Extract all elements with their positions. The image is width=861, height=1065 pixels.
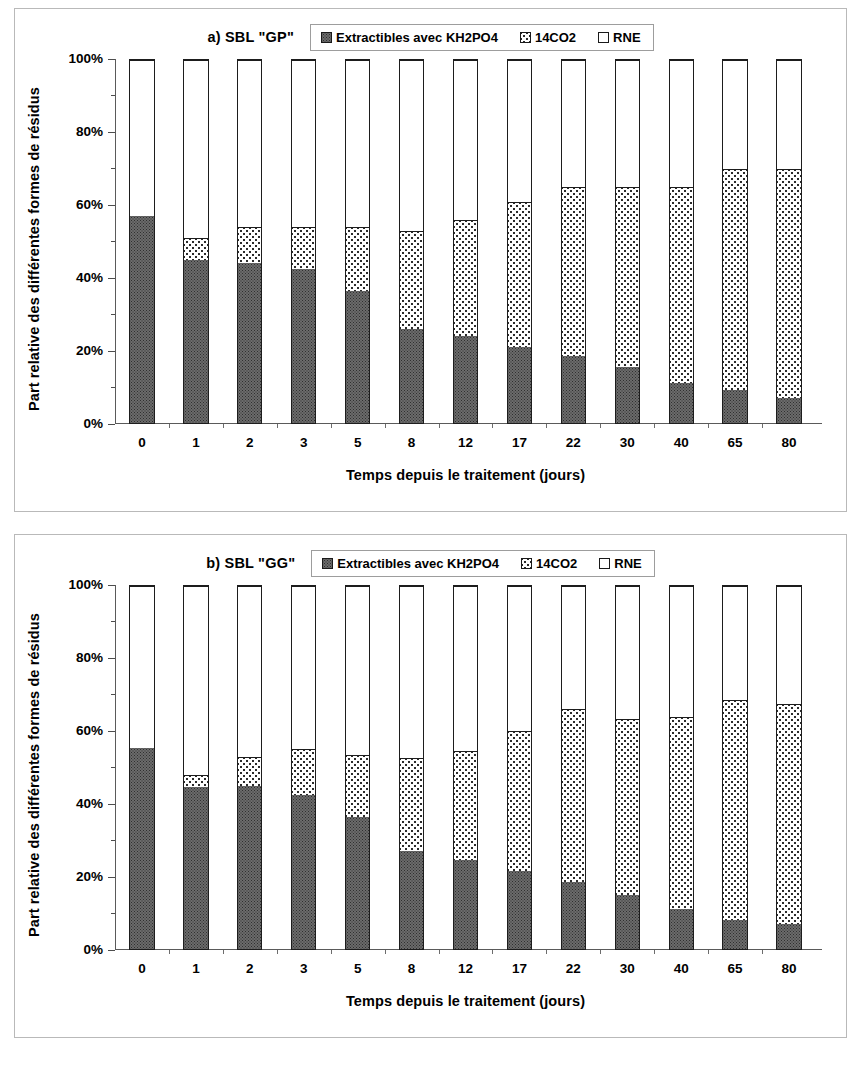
stacked-bar[interactable]: [399, 585, 424, 950]
bar-segment-extractibles: [130, 748, 153, 949]
stacked-bar[interactable]: [237, 59, 262, 424]
bar-segment-14co2: [184, 238, 207, 260]
legend-swatch-14co2-icon: [521, 558, 532, 569]
bar-segment-14co2: [346, 227, 369, 291]
stacked-bar[interactable]: [776, 59, 801, 424]
x-tick-label: 80: [762, 435, 816, 450]
stacked-bar[interactable]: [183, 59, 208, 424]
legend-item-extractibles: Extractibles avec KH2PO4: [321, 30, 498, 45]
bar-segment-extractibles: [777, 924, 800, 949]
stacked-bar[interactable]: [561, 59, 586, 424]
bar-segment-rne: [346, 586, 369, 755]
stacked-bar[interactable]: [345, 585, 370, 950]
bar-segment-extractibles: [400, 329, 423, 423]
bar-segment-14co2: [238, 757, 261, 786]
bar-segment-extractibles: [562, 882, 585, 949]
bar-segment-14co2: [616, 719, 639, 895]
bar-segment-extractibles: [292, 269, 315, 423]
stacked-bar[interactable]: [399, 59, 424, 424]
x-tick-label: 3: [277, 435, 331, 450]
bar-segment-rne: [238, 586, 261, 757]
stacked-bar[interactable]: [615, 59, 640, 424]
panel-b-y-axis-title: Part relative des différentes formes de …: [21, 579, 47, 971]
bar-category: [762, 59, 816, 424]
y-tick-label: 40%: [76, 797, 108, 811]
bar-segment-14co2: [723, 700, 746, 920]
x-tick-label: 40: [654, 435, 708, 450]
bar-segment-rne: [508, 60, 531, 202]
stacked-bar[interactable]: [453, 585, 478, 950]
bar-category: [492, 585, 546, 950]
bar-category: [385, 59, 439, 424]
stacked-bar[interactable]: [722, 585, 747, 950]
y-tick-mark: [108, 950, 115, 951]
bar-category: [762, 585, 816, 950]
bar-segment-14co2: [454, 220, 477, 336]
bar-segment-14co2: [346, 755, 369, 817]
stacked-bar[interactable]: [237, 585, 262, 950]
bar-category: [600, 585, 654, 950]
bar-segment-extractibles: [508, 347, 531, 423]
bar-segment-extractibles: [670, 909, 693, 949]
stacked-bar[interactable]: [183, 585, 208, 950]
bar-segment-14co2: [508, 731, 531, 871]
stacked-bar[interactable]: [129, 59, 154, 424]
bar-segment-14co2: [508, 202, 531, 347]
bar-segment-extractibles: [400, 851, 423, 949]
x-tick-label: 1: [169, 961, 223, 976]
x-tick-label: 40: [654, 961, 708, 976]
panel-b-plot-area: 0%20%40%60%80%100%: [115, 585, 816, 950]
bar-segment-rne: [454, 586, 477, 751]
bar-category: [169, 59, 223, 424]
bar-category: [439, 585, 493, 950]
legend-label-rne: RNE: [613, 30, 640, 45]
stacked-bar[interactable]: [345, 59, 370, 424]
bar-category: [654, 59, 708, 424]
chart-panel-b: b) SBL "GG" Extractibles avec KH2PO4 14C…: [14, 534, 847, 1038]
stacked-bar[interactable]: [722, 59, 747, 424]
stacked-bar[interactable]: [129, 585, 154, 950]
bar-segment-rne: [184, 586, 207, 775]
panel-a-x-axis-title: Temps depuis le traitement (jours): [115, 467, 816, 483]
bar-segment-14co2: [777, 704, 800, 924]
stacked-bar[interactable]: [291, 585, 316, 950]
stacked-bar[interactable]: [776, 585, 801, 950]
x-tick-label: 22: [546, 435, 600, 450]
bar-segment-extractibles: [616, 895, 639, 949]
stacked-bar[interactable]: [615, 585, 640, 950]
y-tick-label: 20%: [76, 344, 108, 358]
y-tick-label: 80%: [76, 651, 108, 665]
legend-item-14co2: 14CO2: [521, 556, 577, 571]
bar-segment-14co2: [238, 227, 261, 263]
bar-segment-extractibles: [238, 786, 261, 949]
legend-label-rne: RNE: [614, 556, 641, 571]
stacked-bar[interactable]: [669, 59, 694, 424]
panel-b-legend: Extractibles avec KH2PO4 14CO2 RNE: [311, 550, 655, 577]
stacked-bar[interactable]: [291, 59, 316, 424]
bar-segment-14co2: [670, 187, 693, 383]
stacked-bar[interactable]: [507, 59, 532, 424]
stacked-bar[interactable]: [669, 585, 694, 950]
bar-category: [439, 59, 493, 424]
bar-category: [115, 59, 169, 424]
panel-a-x-tick-labels: 01235812172230406580: [115, 435, 816, 450]
y-tick-mark: [108, 424, 115, 425]
bar-segment-rne: [562, 60, 585, 187]
stacked-bar[interactable]: [453, 59, 478, 424]
x-tick-label: 8: [385, 961, 439, 976]
bar-segment-rne: [454, 60, 477, 220]
bar-segment-rne: [670, 60, 693, 187]
bar-segment-extractibles: [184, 260, 207, 423]
stacked-bar[interactable]: [507, 585, 532, 950]
bar-segment-rne: [238, 60, 261, 227]
x-tick-label: 0: [115, 961, 169, 976]
bar-segment-14co2: [292, 749, 315, 794]
stacked-bar[interactable]: [561, 585, 586, 950]
y-tick-mark: [108, 585, 115, 586]
bar-category: [223, 59, 277, 424]
y-tick-label: 100%: [68, 578, 108, 592]
bar-category: [492, 59, 546, 424]
bar-segment-extractibles: [723, 390, 746, 423]
legend-item-rne: RNE: [598, 30, 640, 45]
panel-a-y-axis-title: Part relative des différentes formes de …: [21, 53, 47, 445]
